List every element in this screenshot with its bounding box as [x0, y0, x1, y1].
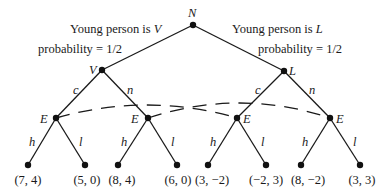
- payoff-6: (−2, 3): [249, 173, 283, 187]
- node-L: [281, 68, 287, 74]
- node-E3: [234, 115, 240, 121]
- node-E1: [53, 115, 59, 121]
- action-E4-h: h: [302, 135, 308, 149]
- payoff-3: (8, 4): [108, 173, 135, 187]
- node-E2: [145, 115, 151, 121]
- node-N: [190, 22, 196, 28]
- node-E4: [327, 115, 333, 121]
- leaf-4: [174, 162, 180, 168]
- probability-right: probability = 1/2: [258, 42, 342, 56]
- action-E2-l: l: [171, 135, 175, 149]
- label-L: L: [288, 64, 296, 78]
- action-E3-l: l: [261, 135, 265, 149]
- payoff-5: (3, −2): [195, 173, 229, 187]
- action-E1-h: h: [29, 135, 35, 149]
- payoff-1: (7, 4): [14, 173, 41, 187]
- action-V-n: n: [127, 83, 133, 97]
- node-V: [99, 67, 105, 73]
- probability-left: probability = 1/2: [38, 42, 122, 56]
- edge-V-n: [102, 70, 148, 118]
- action-E1-l: l: [79, 135, 83, 149]
- payoff-4: (6, 0): [164, 173, 191, 187]
- leaf-2: [82, 162, 88, 168]
- game-tree: N V L E E E E Young person is V probabil…: [0, 0, 388, 196]
- chance-label-left: Young person is V: [70, 22, 163, 36]
- label-E2: E: [130, 112, 139, 126]
- action-L-c: c: [255, 83, 261, 97]
- action-E4-l: l: [353, 135, 357, 149]
- action-V-c: c: [73, 83, 79, 97]
- label-E1: E: [39, 112, 48, 126]
- payoff-2: (5, 0): [73, 173, 100, 187]
- leaf-3: [115, 162, 121, 168]
- leaf-1: [25, 162, 31, 168]
- label-N: N: [187, 6, 197, 20]
- leaf-7: [298, 162, 304, 168]
- edge-V-c: [56, 70, 102, 118]
- label-E4: E: [335, 112, 344, 126]
- leaf-5: [205, 162, 211, 168]
- chance-label-right: Young person is L: [232, 22, 323, 36]
- leaf-8: [357, 162, 363, 168]
- action-E3-h: h: [210, 135, 216, 149]
- action-L-n: n: [309, 83, 315, 97]
- label-E3: E: [242, 112, 251, 126]
- payoff-7: (8, −2): [291, 173, 325, 187]
- action-E2-h: h: [121, 135, 127, 149]
- leaf-6: [263, 162, 269, 168]
- payoff-8: (3, 3): [348, 173, 375, 187]
